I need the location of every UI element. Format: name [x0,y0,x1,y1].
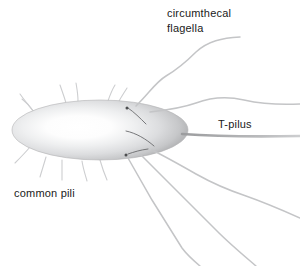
cell-body-ellipse [12,100,188,160]
root-basal-body [125,154,128,157]
label-circumthecal-line2: flagella [167,21,231,36]
t-pilus [182,134,300,136]
pilus-hair [40,157,46,177]
flagellum [128,158,200,266]
pilus-hair [100,160,107,180]
label-t-pilus: T-pilus [218,117,252,132]
label-circumthecal-flagella: circumthecal flagella [167,6,231,36]
pilus-hair [76,83,78,101]
flagella-group [128,37,300,266]
diagram-canvas [0,0,300,266]
root-basal-body [126,107,129,110]
label-common-pili: common pili [14,186,75,201]
pilus-hair [15,147,30,163]
flagellum [136,37,240,106]
pilus-hair [82,161,87,181]
flagellum [150,98,300,112]
pilus-hair [60,85,66,103]
pilus-hair [108,85,115,101]
label-circumthecal-line1: circumthecal [167,6,231,21]
bacterium-diagram: circumthecal flagella T-pilus common pil… [0,0,300,266]
flagellum [152,150,300,218]
pilus-hair [22,99,34,112]
